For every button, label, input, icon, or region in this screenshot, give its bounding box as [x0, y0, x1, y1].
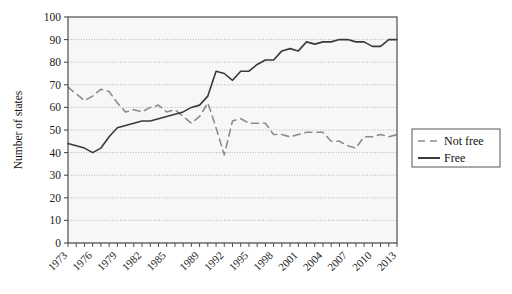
- x-tick-label-1985: 1985: [144, 249, 168, 273]
- y-axis-ticks: 0102030405060708090100: [44, 11, 68, 249]
- x-tick-label-2007: 2007: [325, 249, 349, 273]
- x-axis-ticks: 1973197619791982198519891992199519982001…: [45, 243, 398, 273]
- y-tick-label-0: 0: [55, 237, 61, 249]
- x-tick-label-1973: 1973: [45, 249, 69, 273]
- y-tick-label-20: 20: [50, 192, 62, 204]
- x-tick-label-1982: 1982: [119, 249, 143, 273]
- y-axis-title: Number of states: [12, 90, 24, 169]
- legend-label-free: Free: [444, 151, 465, 165]
- y-tick-label-30: 30: [50, 169, 62, 181]
- y-tick-label-10: 10: [50, 214, 62, 226]
- y-tick-label-70: 70: [50, 79, 62, 91]
- x-tick-label-1998: 1998: [251, 249, 275, 273]
- x-tick-label-2004: 2004: [300, 249, 324, 273]
- x-tick-label-2010: 2010: [350, 249, 374, 273]
- y-tick-label-60: 60: [50, 101, 62, 113]
- y-tick-label-90: 90: [50, 34, 62, 46]
- legend-label-not-free: Not free: [444, 134, 484, 148]
- y-tick-label-100: 100: [44, 11, 62, 23]
- y-tick-label-40: 40: [50, 147, 62, 159]
- chart-legend: Not freeFree: [412, 129, 500, 167]
- x-tick-label-1995: 1995: [226, 249, 250, 273]
- x-tick-label-2013: 2013: [374, 249, 398, 273]
- y-axis-title-text: Number of states: [12, 90, 24, 169]
- line-chart-canvas: 0102030405060708090100 19731976197919821…: [0, 0, 512, 294]
- chart-figure: 0102030405060708090100 19731976197919821…: [0, 0, 512, 294]
- x-tick-label-1979: 1979: [95, 249, 119, 273]
- x-tick-label-1989: 1989: [177, 249, 201, 273]
- y-tick-label-50: 50: [50, 124, 62, 136]
- x-tick-label-1976: 1976: [70, 249, 94, 273]
- x-tick-label-1992: 1992: [202, 249, 226, 273]
- x-tick-label-2001: 2001: [276, 249, 300, 273]
- y-tick-label-80: 80: [50, 56, 62, 68]
